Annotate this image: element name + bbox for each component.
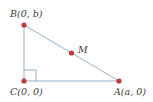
point-m <box>69 50 74 55</box>
point-c <box>21 78 26 83</box>
label-c: C(0, 0) <box>10 86 43 97</box>
point-a <box>116 78 121 83</box>
point-b <box>21 22 26 27</box>
label-a: A(a, 0) <box>113 86 146 97</box>
label-m: M <box>77 44 88 55</box>
triangle-diagram: B(0, b) C(0, 0) A(a, 0) M <box>0 0 153 102</box>
label-b: B(0, b) <box>9 8 43 19</box>
